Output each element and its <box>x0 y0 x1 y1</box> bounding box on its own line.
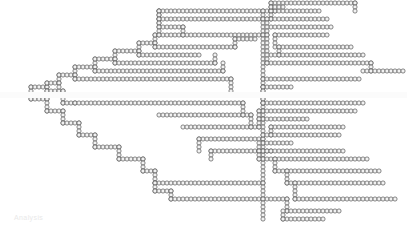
dendrogram-canvas <box>0 0 407 229</box>
dendrogram-figure: Analysis <box>0 0 407 229</box>
dendrogram-branches <box>1 1 405 221</box>
